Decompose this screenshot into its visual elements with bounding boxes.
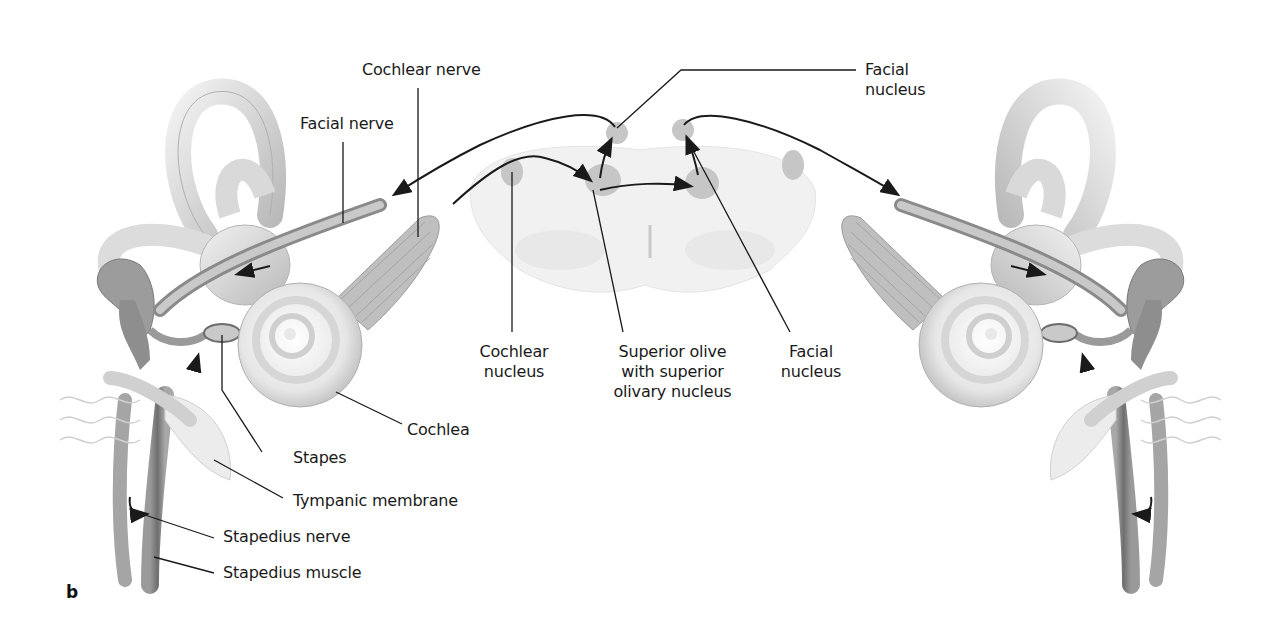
label-superior-olive: Superior olive with superior olivary nuc…	[600, 342, 745, 402]
label-cochlear-nucleus: Cochlear nucleus	[474, 342, 554, 382]
panel-label: b	[66, 582, 78, 602]
label-stapedius-muscle: Stapedius muscle	[223, 563, 361, 583]
label-stapedius-nerve: Stapedius nerve	[223, 527, 350, 547]
label-cochlea: Cochlea	[407, 420, 470, 440]
label-cochlear-nerve: Cochlear nerve	[362, 60, 481, 80]
label-stapes: Stapes	[293, 448, 346, 468]
label-facial-nerve: Facial nerve	[300, 114, 394, 134]
right-facial-nucleus	[672, 119, 694, 141]
left-facial-nucleus	[606, 122, 628, 144]
label-facial-nucleus-top: Facial nucleus	[865, 60, 925, 100]
left-superior-olive	[585, 164, 621, 196]
label-tympanic-membrane: Tympanic membrane	[293, 491, 458, 511]
right-superior-olive	[685, 167, 719, 199]
label-facial-nucleus-bottom: Facial nucleus	[771, 342, 851, 382]
right-cochlear-nucleus	[782, 150, 804, 180]
reflex-diagram	[0, 0, 1281, 634]
brainstem-section	[470, 119, 816, 292]
right-ear-illustration	[842, 91, 1221, 585]
